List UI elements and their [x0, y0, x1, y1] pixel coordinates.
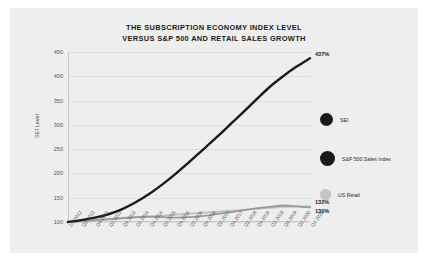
y-tick-label: 150 — [54, 195, 63, 201]
y-tick-label: 300 — [54, 122, 63, 128]
y-axis-label: SEI Level — [34, 114, 40, 138]
chart-card: THE SUBSCRIPTION ECONOMY INDEX LEVEL VER… — [0, 0, 428, 269]
legend-label: SEI — [340, 117, 348, 123]
series-end-label: 132% — [315, 199, 329, 205]
chart-title: THE SUBSCRIPTION ECONOMY INDEX LEVEL VER… — [10, 23, 418, 44]
y-tick-label: 450 — [54, 49, 63, 55]
y-tick-label: 350 — [54, 98, 63, 104]
y-tick-label: 400 — [54, 73, 63, 79]
y-tick-label: 100 — [54, 219, 63, 225]
legend-label: S&P 500 Sales Index — [342, 156, 391, 162]
legend-dot-icon — [320, 151, 335, 166]
series-lines — [68, 52, 310, 222]
y-tick-label: 250 — [54, 146, 63, 152]
x-tick-label: Q4 2020 — [310, 210, 325, 228]
legend-label: US Retail — [338, 192, 360, 198]
series-end-label: 437% — [315, 51, 329, 57]
series-line — [68, 58, 310, 222]
legend-item[interactable]: S&P 500 Sales Index — [320, 151, 391, 166]
y-tick-label: 200 — [54, 170, 63, 176]
legend-item[interactable]: US Retail — [320, 189, 360, 200]
plot-area: 100150200250300350400450 437%132%130% 1/… — [68, 52, 310, 222]
legend-item[interactable]: SEI — [320, 113, 348, 126]
legend-dot-icon — [320, 113, 333, 126]
chart-panel: THE SUBSCRIPTION ECONOMY INDEX LEVEL VER… — [10, 8, 418, 253]
legend-dot-icon — [320, 189, 331, 200]
